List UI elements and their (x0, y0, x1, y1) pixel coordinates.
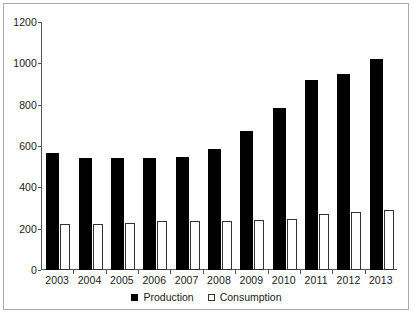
bar-production-2008 (208, 149, 221, 270)
y-axis-tick-label: 600 (19, 140, 37, 152)
y-axis-tick-label: 1200 (13, 16, 37, 28)
x-axis-tick-label: 2007 (175, 274, 199, 286)
bar-production-2003 (46, 153, 59, 270)
legend-label-consumption: Consumption (220, 291, 282, 303)
x-axis-tick-label: 2004 (78, 274, 102, 286)
y-axis-tick-label: 1000 (13, 57, 37, 69)
bar-production-2004 (79, 158, 92, 270)
x-axis-labels: 2003200420052006200720082009201020112012… (41, 274, 397, 290)
y-axis-tick-label: 200 (19, 223, 37, 235)
bar-consumption-2010 (287, 219, 297, 270)
bar-production-2009 (240, 131, 253, 271)
bar-consumption-2007 (190, 221, 200, 270)
bar-consumption-2003 (60, 224, 70, 271)
x-axis-tick-label: 2013 (369, 274, 393, 286)
filled-square-icon (131, 294, 138, 301)
bar-consumption-2013 (384, 210, 394, 270)
bar-production-2013 (370, 59, 383, 270)
bar-consumption-2006 (157, 221, 167, 270)
x-axis-tick-label: 2003 (45, 274, 69, 286)
x-axis-tick-label: 2010 (272, 274, 296, 286)
bar-production-2010 (273, 108, 286, 270)
x-axis-tick-label: 2008 (207, 274, 231, 286)
x-axis-tick-label: 2006 (142, 274, 166, 286)
x-axis-tick-label: 2005 (110, 274, 134, 286)
bar-chart: 020040060080010001200 200320042005200620… (0, 0, 413, 314)
chart-legend: Production Consumption (0, 291, 413, 303)
bar-consumption-2009 (254, 220, 264, 270)
bar-consumption-2011 (319, 214, 329, 270)
x-axis-tick-label: 2012 (337, 274, 361, 286)
bar-production-2011 (305, 80, 318, 270)
legend-label-production: Production (143, 291, 193, 303)
bar-production-2006 (143, 158, 156, 270)
y-axis-tick-label: 400 (19, 181, 37, 193)
y-axis-tick-label: 0 (31, 264, 37, 276)
bar-production-2012 (337, 74, 350, 270)
x-axis-tick-label: 2011 (305, 274, 328, 286)
legend-item-consumption: Consumption (208, 291, 282, 303)
bar-consumption-2004 (93, 224, 103, 271)
bar-consumption-2012 (351, 212, 361, 270)
bar-consumption-2005 (125, 223, 135, 270)
bars-layer (41, 22, 397, 270)
legend-item-production: Production (131, 291, 193, 303)
y-axis: 020040060080010001200 (0, 0, 41, 314)
open-square-icon (208, 294, 215, 301)
bar-production-2007 (176, 157, 189, 270)
chart-screenshot: 020040060080010001200 200320042005200620… (0, 0, 413, 314)
x-axis-tick-label: 2009 (239, 274, 263, 286)
y-axis-tick-label: 800 (19, 99, 37, 111)
bar-production-2005 (111, 158, 124, 270)
bar-consumption-2008 (222, 221, 232, 270)
